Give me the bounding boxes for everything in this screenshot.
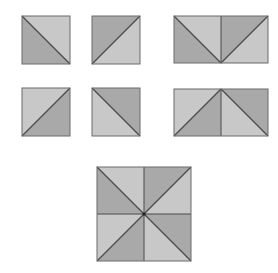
tile-d (144, 214, 191, 261)
rectangle-cd (174, 89, 268, 136)
tile-d (221, 89, 268, 136)
tile-c (97, 214, 144, 261)
diagram-canvas (0, 0, 278, 273)
big-square-abcd (97, 167, 191, 261)
tile-a (174, 16, 221, 63)
tile-a (97, 167, 144, 214)
tile-c (22, 88, 70, 136)
square-d (92, 88, 140, 136)
tile-d (92, 88, 140, 136)
square-a (22, 16, 70, 64)
center-dot (142, 212, 145, 215)
tile-b (92, 16, 140, 64)
tile-c (174, 89, 221, 136)
rectangle-ab (174, 16, 268, 63)
tile-a (22, 16, 70, 64)
tile-b (221, 16, 268, 63)
square-c (22, 88, 70, 136)
tile-b (144, 167, 191, 214)
square-b (92, 16, 140, 64)
